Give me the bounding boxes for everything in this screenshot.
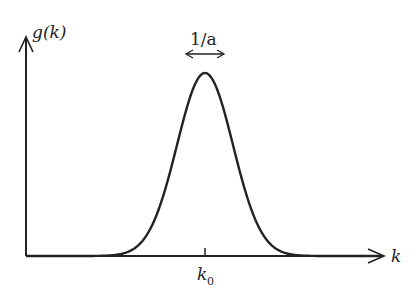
width-label: 1/a — [190, 29, 217, 49]
center-label: k — [197, 264, 207, 284]
center-label-subscript: 0 — [207, 275, 214, 288]
gaussian-curve — [26, 73, 380, 256]
x-axis-label: k — [391, 246, 401, 266]
y-axis-label: g(k) — [32, 22, 66, 42]
gaussian-diagram: g(k) k 1/a k 0 — [0, 0, 420, 299]
